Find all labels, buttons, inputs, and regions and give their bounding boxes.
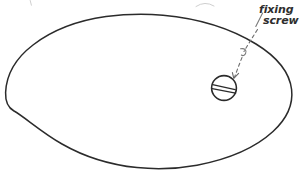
leader-line <box>244 30 258 52</box>
label-line-2: screw <box>263 14 300 27</box>
hand-drawn-diagram: fixing screw <box>0 0 305 177</box>
screw-head-icon <box>212 76 237 101</box>
egg-outline <box>6 14 292 168</box>
leader-curl-icon <box>241 49 246 56</box>
screw-head-group <box>212 76 237 101</box>
ghost-marks-group <box>30 1 214 7</box>
callout-leader-group <box>232 30 257 79</box>
cropped-arc-top-icon <box>196 3 214 6</box>
cropped-mark-left-icon <box>30 1 31 6</box>
sketch-canvas-root: fixing screw <box>0 0 305 177</box>
fixing-screw-label-group: fixing screw <box>256 3 300 27</box>
egg-outline-group <box>6 14 292 168</box>
